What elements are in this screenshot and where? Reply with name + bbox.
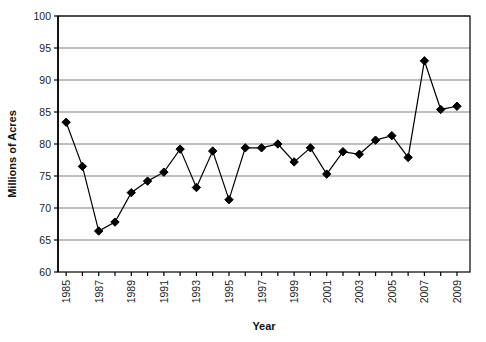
chart-background: [0, 0, 486, 342]
y-axis-tick-label: 60: [39, 266, 51, 278]
x-axis-tick-label: 1999: [288, 280, 300, 304]
x-axis-tick-label: 1991: [158, 280, 170, 304]
y-axis-tick-label: 70: [39, 202, 51, 214]
x-axis-tick-label: 2001: [321, 280, 333, 304]
x-axis-tick-label: 2009: [451, 280, 463, 304]
x-axis-tick-label: 1995: [223, 280, 235, 304]
y-axis-tick-label: 65: [39, 234, 51, 246]
x-axis-tick-label: 1987: [93, 280, 105, 304]
y-axis-tick-label: 95: [39, 42, 51, 54]
y-axis-title: Millions of Acres: [6, 110, 18, 198]
y-axis-tick-label: 75: [39, 170, 51, 182]
line-chart: 6065707580859095100 19851987198919911993…: [0, 0, 486, 342]
x-axis-tick-label: 2007: [418, 280, 430, 304]
y-axis-tick-label: 100: [33, 10, 51, 22]
x-axis-tick-label: 1985: [60, 280, 72, 304]
x-axis-title: Year: [252, 320, 276, 332]
x-axis-tick-label: 1993: [190, 280, 202, 304]
x-axis-tick-label: 1997: [256, 280, 268, 304]
chart-figure: 6065707580859095100 19851987198919911993…: [0, 0, 486, 342]
y-axis-tick-label: 90: [39, 74, 51, 86]
x-axis-tick-label: 2003: [353, 280, 365, 304]
y-axis-tick-label: 85: [39, 106, 51, 118]
y-axis-tick-label: 80: [39, 138, 51, 150]
x-axis-tick-label: 2005: [386, 280, 398, 304]
x-axis-tick-label: 1989: [125, 280, 137, 304]
